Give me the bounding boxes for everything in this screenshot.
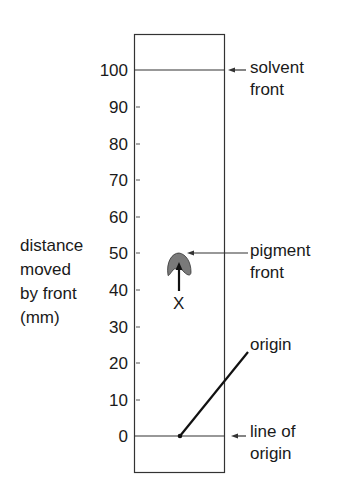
pigment-front-arrow-icon [187,251,248,256]
x-marker-label: X [173,295,184,312]
tick-label-50: 50 [88,245,128,262]
axis-title: distance moved by front (mm) [20,234,83,330]
origin-pointer [178,352,248,438]
origin-label: origin [250,334,292,356]
line-of-origin-arrow-icon [231,434,246,439]
tick-label-90: 90 [88,99,128,116]
tick-label-80: 80 [88,136,128,153]
tick-label-70: 70 [88,172,128,189]
axis-title-line: (mm) [20,306,83,330]
solvent-front-label: solvent front [250,57,304,101]
line-of-origin-label: line of origin [250,421,295,465]
tick-label-60: 60 [88,209,128,226]
tick-label-20: 20 [88,355,128,372]
pigment-front-label: pigment front [250,240,310,284]
tick-label-30: 30 [88,319,128,336]
axis-title-line: moved [20,258,83,282]
origin-dot [178,434,183,439]
solvent-front-arrow-icon [228,68,246,73]
tick-label-10: 10 [88,392,128,409]
axis-title-line: by front [20,282,83,306]
axis-ticks [136,107,140,400]
tick-label-100: 100 [88,62,128,79]
tick-label-40: 40 [88,282,128,299]
chromatography-diagram: 100 90 80 70 60 50 40 30 20 10 0 distanc… [0,0,346,499]
tick-label-0: 0 [88,428,128,445]
axis-title-line: distance [20,234,83,258]
